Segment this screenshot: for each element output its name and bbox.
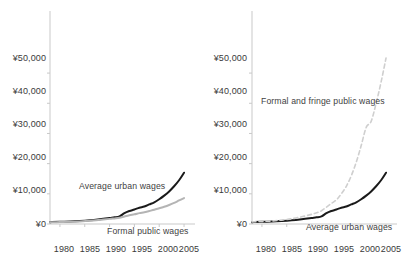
- y-tick-label-20000: ¥20,000: [201, 152, 247, 162]
- x-tick-label-1995: 1995: [128, 244, 156, 254]
- series-line-average-urban-wages: [252, 173, 386, 222]
- chart-panel-left: ¥50,000 ¥40,000 ¥30,000 ¥20,000 ¥10,000 …: [0, 0, 205, 264]
- x-tick-label-2005: 2005: [175, 244, 203, 254]
- x-tick-label-2005: 2005: [377, 244, 405, 254]
- x-tick-label-1985: 1985: [278, 244, 306, 254]
- series-line-formal-and-fringe-public-wages: [252, 58, 386, 222]
- series-label-formal-and-fringe-public-wages: Formal and fringe public wages: [261, 96, 385, 106]
- y-tick-label-0: ¥0: [201, 219, 247, 229]
- y-tick-label-50000: ¥50,000: [201, 53, 247, 63]
- x-tick-label-1985: 1985: [76, 244, 104, 254]
- y-tick-label-30000: ¥30,000: [201, 119, 247, 129]
- x-tick-label-1980: 1980: [50, 244, 78, 254]
- y-tick-label-0: ¥0: [0, 219, 46, 229]
- y-tick-label-10000: ¥10,000: [201, 185, 247, 195]
- series-label-average-urban-wages: Average urban wages: [79, 181, 165, 191]
- dual-line-chart-figure: ¥50,000 ¥40,000 ¥30,000 ¥20,000 ¥10,000 …: [0, 0, 410, 264]
- x-tick-label-1995: 1995: [330, 244, 358, 254]
- y-tick-label-40000: ¥40,000: [0, 86, 46, 96]
- series-line-formal-public-wages: [50, 198, 184, 222]
- y-tick-label-50000: ¥50,000: [0, 53, 46, 63]
- x-tick-label-1990: 1990: [304, 244, 332, 254]
- x-tick-label-1990: 1990: [102, 244, 130, 254]
- series-label-average-urban-wages: Average urban wages: [306, 222, 392, 232]
- y-tick-label-40000: ¥40,000: [201, 86, 247, 96]
- y-tick-label-10000: ¥10,000: [0, 185, 46, 195]
- series-label-formal-public-wages: Formal public wages: [107, 226, 189, 236]
- y-tick-label-20000: ¥20,000: [0, 152, 46, 162]
- y-tick-label-30000: ¥30,000: [0, 119, 46, 129]
- x-tick-label-1980: 1980: [252, 244, 280, 254]
- chart-panel-right: ¥50,000 ¥40,000 ¥30,000 ¥20,000 ¥10,000 …: [205, 0, 410, 264]
